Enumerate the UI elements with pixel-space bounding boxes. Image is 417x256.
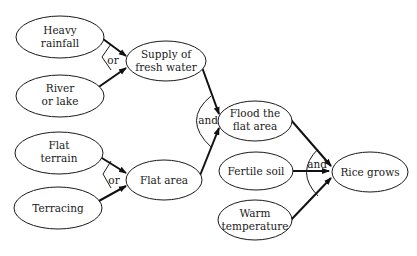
- node-warm-temperature: Warm temperature: [218, 200, 292, 240]
- svg-text:rainfall: rainfall: [41, 37, 80, 49]
- svg-text:Flat area: Flat area: [140, 174, 188, 186]
- gate-and-2: and: [307, 149, 328, 196]
- node-supply-of-fresh-water: Supply of fresh water: [126, 41, 206, 81]
- gate-label: and: [307, 158, 327, 170]
- and-gate-arc: [307, 149, 319, 196]
- svg-text:Flood the: Flood the: [230, 107, 281, 119]
- node-flat-terrain: Flat terrain: [15, 132, 103, 174]
- gate-or-1: or: [102, 44, 120, 70]
- node-rice-grows: Rice grows: [332, 152, 408, 192]
- node-terracing: Terracing: [14, 187, 102, 229]
- gate-label: or: [108, 174, 120, 186]
- svg-text:River: River: [46, 82, 75, 94]
- svg-text:or lake: or lake: [42, 95, 79, 107]
- svg-text:Flat: Flat: [48, 139, 70, 151]
- edges: [88, 30, 331, 222]
- svg-text:Supply of: Supply of: [141, 48, 192, 60]
- svg-text:temperature: temperature: [222, 220, 289, 232]
- node-heavy-rainfall: Heavy rainfall: [16, 16, 104, 58]
- node-flat-area: Flat area: [126, 160, 202, 200]
- svg-text:Heavy: Heavy: [43, 24, 77, 36]
- node-fertile-soil: Fertile soil: [219, 152, 293, 190]
- svg-text:terrain: terrain: [41, 152, 78, 164]
- svg-text:flat area: flat area: [233, 120, 278, 132]
- svg-text:Terracing: Terracing: [32, 202, 84, 214]
- edge-flat-area-to-flood: [199, 128, 219, 178]
- rice-growing-diagram: or or and and Heavy rainfall River or la…: [0, 0, 417, 256]
- svg-text:fresh water: fresh water: [135, 61, 197, 73]
- svg-text:Rice grows: Rice grows: [340, 166, 399, 178]
- svg-text:Fertile soil: Fertile soil: [228, 165, 285, 177]
- gate-label: or: [107, 54, 119, 66]
- node-river-or-lake: River or lake: [16, 75, 104, 117]
- node-flood-the-flat-area: Flood the flat area: [218, 101, 292, 141]
- svg-text:Warm: Warm: [239, 207, 270, 219]
- gate-label: and: [198, 114, 218, 126]
